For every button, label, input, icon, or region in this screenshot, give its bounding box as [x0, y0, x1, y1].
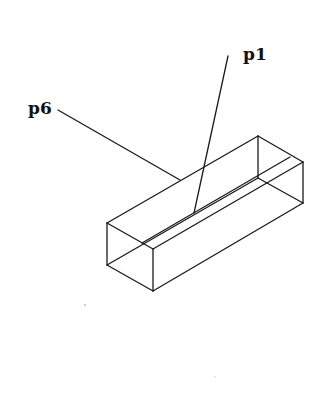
edge-bottom-back-hidden: [107, 178, 258, 265]
diagram-canvas: p1 p6: [0, 0, 317, 403]
box-wireframe: [0, 0, 317, 403]
groove-line-inner: [142, 157, 290, 243]
edge-bottom-front-long: [153, 203, 303, 291]
edge-top-back-left: [107, 136, 258, 223]
label-p1: p1: [243, 46, 267, 63]
groove-line-front: [153, 162, 303, 249]
edge-top-left: [107, 223, 153, 249]
stray-dot: [84, 304, 86, 306]
edge-bottom-left: [107, 265, 153, 291]
leader-line-p1: [194, 56, 228, 213]
stray-dot: [214, 376, 216, 378]
leader-line-p6: [58, 110, 180, 180]
edge-top-right: [258, 136, 303, 162]
label-p6: p6: [28, 100, 52, 117]
edge-right-bottom-hidden: [258, 178, 303, 203]
